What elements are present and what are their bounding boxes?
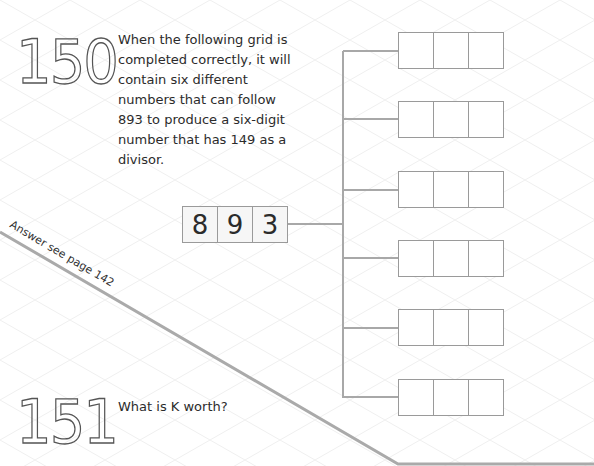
answer-cell[interactable] [468,32,504,69]
answer-row-5 [398,309,504,346]
answer-row-6 [398,379,504,416]
answer-row-3 [398,171,504,208]
answer-cell[interactable] [398,32,434,69]
answer-cell[interactable] [468,101,504,138]
answer-cell[interactable] [468,171,504,208]
puzzle-150-question: When the following grid is completed cor… [118,30,298,170]
answer-cell[interactable] [398,101,434,138]
puzzle-number-151: 151 [16,392,117,452]
answer-cell[interactable] [433,171,469,208]
puzzle-151-question: What is K worth? [118,397,318,417]
answer-cell[interactable] [398,309,434,346]
answer-cell[interactable] [433,32,469,69]
answer-cell[interactable] [468,379,504,416]
answer-cell[interactable] [468,240,504,277]
answer-cell[interactable] [398,171,434,208]
answer-row-2 [398,101,504,138]
answer-cell[interactable] [468,309,504,346]
given-digit: 8 [182,206,218,243]
answer-cell[interactable] [433,101,469,138]
answer-row-4 [398,240,504,277]
answer-cell[interactable] [398,379,434,416]
answer-cell[interactable] [433,309,469,346]
given-digit: 9 [217,206,253,243]
given-digit: 3 [252,206,288,243]
answer-row-1 [398,32,504,69]
given-number-893: 8 9 3 [182,206,288,243]
answer-cell[interactable] [433,240,469,277]
puzzle-number-150: 150 [16,32,117,92]
answer-cell[interactable] [398,240,434,277]
answer-cell[interactable] [433,379,469,416]
